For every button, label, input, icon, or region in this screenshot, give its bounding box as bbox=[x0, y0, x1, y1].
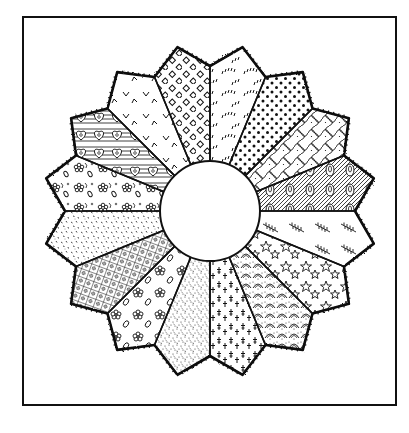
stitch-tick bbox=[110, 329, 112, 330]
stitch-tick bbox=[97, 109, 98, 111]
stitch-tick bbox=[344, 305, 345, 307]
stitch-tick bbox=[339, 113, 340, 115]
stitch-tick bbox=[86, 308, 87, 310]
stitch-tick bbox=[344, 115, 345, 117]
stitch-tick bbox=[308, 329, 310, 330]
stitch-tick bbox=[310, 98, 312, 99]
stitch-tick bbox=[110, 92, 112, 93]
stitch-tick bbox=[318, 312, 319, 314]
stitch-tick bbox=[114, 345, 116, 346]
stitch-tick bbox=[307, 334, 309, 335]
stitch-tick bbox=[333, 308, 334, 310]
stitch-tick bbox=[304, 345, 306, 346]
stitch-tick bbox=[114, 77, 116, 78]
stitch-tick bbox=[111, 87, 113, 88]
dresden-plate-drawing bbox=[0, 0, 409, 433]
stitch-tick bbox=[107, 103, 109, 104]
stitch-tick bbox=[76, 115, 77, 117]
stitch-tick bbox=[304, 77, 306, 78]
plate-center-circle bbox=[160, 161, 260, 261]
stitch-tick bbox=[97, 311, 98, 313]
stitch-tick bbox=[333, 112, 334, 114]
stitch-tick bbox=[107, 319, 109, 320]
stitch-tick bbox=[328, 111, 329, 113]
stitch-tick bbox=[323, 109, 324, 111]
stitch-tick bbox=[81, 307, 82, 309]
stitch-tick bbox=[339, 307, 340, 309]
stitch-tick bbox=[86, 112, 87, 114]
stitch-tick bbox=[102, 108, 103, 110]
stitch-tick bbox=[328, 309, 329, 311]
stitch-tick bbox=[307, 87, 309, 88]
stitch-tick bbox=[108, 324, 110, 325]
stitch-tick bbox=[311, 319, 313, 320]
stitch-tick bbox=[311, 103, 313, 104]
stitch-tick bbox=[81, 113, 82, 115]
stitch-tick bbox=[111, 334, 113, 335]
stitch-tick bbox=[310, 324, 312, 325]
stitch-tick bbox=[112, 82, 114, 83]
quilt-illustration: Dresden Plate quilt block bbox=[0, 0, 409, 433]
stitch-tick bbox=[306, 340, 308, 341]
stitch-tick bbox=[308, 92, 310, 93]
stitch-tick bbox=[91, 309, 92, 311]
stitch-tick bbox=[112, 340, 114, 341]
stitch-tick bbox=[306, 82, 308, 83]
stitch-tick bbox=[318, 108, 319, 110]
stitch-tick bbox=[108, 98, 110, 99]
stitch-tick bbox=[91, 111, 92, 113]
stitch-tick bbox=[323, 311, 324, 313]
stitch-tick bbox=[76, 305, 77, 307]
stitch-tick bbox=[102, 312, 103, 314]
